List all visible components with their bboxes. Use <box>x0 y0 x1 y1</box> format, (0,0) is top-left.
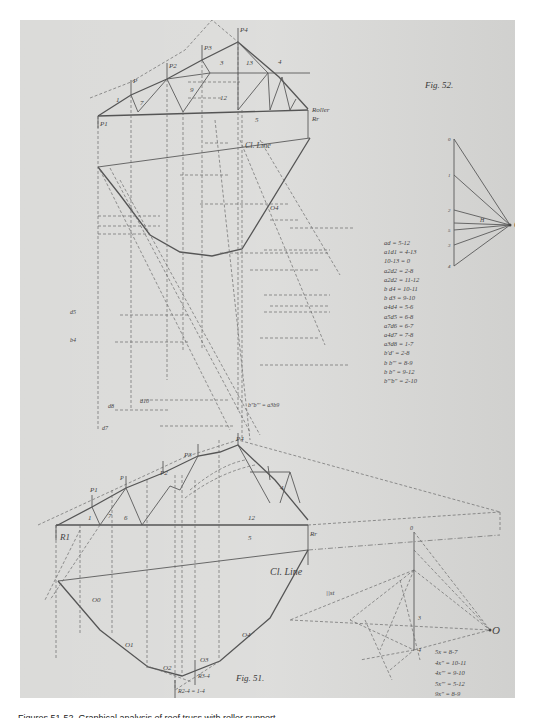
equation-line: 5x"' = 5-12 <box>435 680 466 687</box>
fig52-member-4: 4 <box>278 58 282 66</box>
fig51-member-4: 4 <box>280 484 284 492</box>
equation-line: a3d8 = 1-7 <box>384 340 414 347</box>
fig51-member-7: 7 <box>108 512 112 520</box>
fig52-closing-line <box>98 138 310 167</box>
fig52-funicular-polygon <box>98 138 310 256</box>
fig52-label-d8: d8 <box>108 403 114 409</box>
fig52-load-p4: P4 <box>239 26 248 34</box>
fig52-polygon-point: 0 <box>448 137 451 142</box>
fig51-load-p: P <box>119 475 124 481</box>
fig51-funicular-o3: O3 <box>200 656 209 664</box>
fig51-equations: 5x = 8-74x" = 10-114x"' = 9-105x"' = 5-1… <box>435 648 466 697</box>
fig52-polygon-point: 5 <box>448 228 451 233</box>
fig51-load-p1: P1 <box>89 486 98 494</box>
fig51-funicular-o2: O2 <box>163 664 172 672</box>
fig52-top-chord <box>98 42 308 116</box>
fig51-reaction-left: R1 <box>59 532 70 542</box>
fig52-closing-line-label: Cl. Line <box>245 141 271 150</box>
fig52-member-5: 5 <box>255 116 259 124</box>
fig51-member-5: 5 <box>248 534 252 542</box>
equation-line: b d3 = 9-10 <box>384 294 416 301</box>
equation-line: b d4 = 10-11 <box>384 285 418 292</box>
fig51-polygon-point: 4 <box>418 647 421 653</box>
fig52-label-d7: d7 <box>102 425 109 431</box>
fig52-polygon-point: 3 <box>448 243 451 248</box>
fig52-pole-label: O <box>514 219 515 230</box>
fig51-title: Fig. 51. <box>235 673 264 683</box>
fig51-pole-label: O <box>492 624 500 636</box>
fig52-member-12: 12 <box>220 94 228 102</box>
fig52-o4-label: O4 <box>270 204 279 212</box>
fig52-label-d10: d10 <box>140 398 149 404</box>
fig51-funicular-o0: O0 <box>92 596 101 604</box>
drawing-plate: Fig. 52. Roller Rr P1 P P2 P3 P4 1 3 4 5… <box>20 20 515 698</box>
fig51-load-p3: P3 <box>183 451 192 459</box>
fig52-member-9: 9 <box>190 86 194 94</box>
fig52-label-d5: d5 <box>70 309 76 315</box>
fig52-force-polygon <box>454 139 512 266</box>
fig51-reaction-right: Rr <box>309 530 317 538</box>
fig51-resultant-r34: R3-4 <box>197 673 210 679</box>
fig51-resultant-r24: R2-4 = 1-4 <box>177 688 205 694</box>
fig51-parallel-label: ||st <box>326 589 336 597</box>
fig52-member-1: 1 <box>116 96 120 104</box>
fig52-label-b4: b4 <box>70 337 76 343</box>
fig52-title: Fig. 52. <box>424 80 453 90</box>
equation-line: a1d1 = 4-13 <box>384 248 417 255</box>
equation-line: ad = 5-12 <box>384 239 411 246</box>
fig51-diagram <box>38 433 500 698</box>
equation-line: 4x" = 10-11 <box>435 659 466 666</box>
fig52-roller-label: Roller <box>311 106 330 114</box>
equation-line: b"'b" = 2-10 <box>384 377 418 384</box>
fig52-load-p3: P3 <box>203 44 212 52</box>
fig52-load-p1: P1 <box>99 120 108 128</box>
fig52-equations: ad = 5-12a1d1 = 4-1310-13 = 0a2d2 = 2-8a… <box>384 239 420 384</box>
fig52-member-7: 7 <box>140 99 144 107</box>
fig52-load-p: P <box>132 77 138 85</box>
fig52-member-3: 3 <box>219 59 224 67</box>
fig51-load-p4: P4 <box>235 435 244 443</box>
fig52-polygon-point: 1 <box>448 173 451 178</box>
equation-line: b b" = 9-12 <box>384 368 415 375</box>
fig51-funicular-o1: O1 <box>125 641 134 649</box>
fig52-reaction-right: Rr <box>311 115 319 123</box>
fig51-polygon-point: 0 <box>410 525 413 531</box>
fig52-member-13: 13 <box>246 59 254 67</box>
equation-line: a2d2 = 2-8 <box>384 267 414 274</box>
equation-line: 4x"' = 9-10 <box>435 669 466 676</box>
equation-line: a4d7 = 7-8 <box>384 331 414 338</box>
equation-line: b b"' = 8-9 <box>384 359 413 366</box>
equation-line: a2d2 = 11-12 <box>384 276 420 283</box>
fig51-member-12: 12 <box>248 514 256 522</box>
fig51-member-1: 1 <box>88 514 92 522</box>
equation-line: a7d6 = 6-7 <box>384 322 414 329</box>
fig51-funicular-o4: O4 <box>242 631 251 639</box>
truss-drawing: Fig. 52. Roller Rr P1 P P2 P3 P4 1 3 4 5… <box>20 20 515 698</box>
equation-line: a4d4 = 5-6 <box>384 303 414 310</box>
fig51-load-p2: P2 <box>159 469 168 477</box>
fig51-polygon-point: 3 <box>417 615 421 621</box>
fig51-member-6: 6 <box>124 514 128 522</box>
fig52-pole-distance: H <box>479 217 485 223</box>
fig52-load-p2: P2 <box>168 62 177 70</box>
fig52-b-equation: b"b"' = a3b9 <box>248 402 279 408</box>
figure-caption: Figures 51-52. Graphical analysis of roo… <box>18 711 276 718</box>
fig52-bottom-chord <box>98 110 308 116</box>
equation-line: a5d5 = 6-8 <box>384 313 414 320</box>
fig52-polygon-point: 4 <box>448 264 451 269</box>
equation-line: 10-13 = 0 <box>384 257 411 264</box>
equation-line: 5x = 8-7 <box>435 648 458 655</box>
fig51-closing-line-label: Cl. Line <box>270 566 303 577</box>
equation-line: b'd' = 2-8 <box>384 349 410 356</box>
fig52-polygon-point: 2 <box>448 208 451 213</box>
equation-line: 9x" = 8-9 <box>435 690 461 697</box>
